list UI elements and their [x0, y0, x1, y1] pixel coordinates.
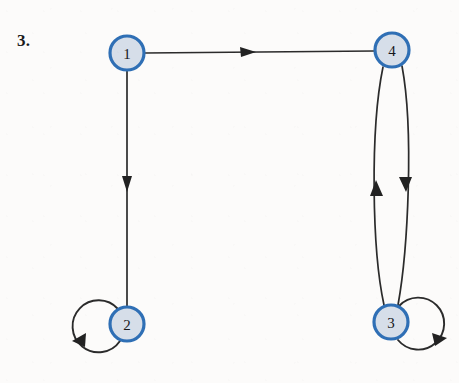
- node-1[interactable]: 1: [110, 36, 144, 70]
- edge-1-to-4-arrowhead: [240, 47, 256, 57]
- edge-1-to-2-arrowhead: [122, 176, 132, 192]
- node-4-label: 4: [388, 43, 396, 59]
- node-3[interactable]: 3: [374, 305, 408, 339]
- edge-3-to-4: [370, 67, 384, 305]
- edge-4-to-3: [398, 66, 412, 305]
- graph-canvas: 1 4 2 3: [0, 0, 459, 383]
- edge-4-to-3-arrowhead: [399, 177, 412, 192]
- node-3-label: 3: [387, 315, 395, 331]
- node-1-label: 1: [123, 46, 131, 62]
- node-4[interactable]: 4: [375, 33, 409, 67]
- edge-1-to-4-line: [145, 51, 374, 53]
- edge-1-to-2: [122, 71, 132, 306]
- node-2[interactable]: 2: [110, 307, 144, 341]
- node-2-label: 2: [123, 317, 131, 333]
- figure-container: 3.: [0, 0, 459, 383]
- edge-3-to-4-arrowhead: [370, 180, 383, 196]
- edge-1-to-4: [145, 47, 374, 57]
- node-group: 1 4 2 3: [110, 33, 409, 341]
